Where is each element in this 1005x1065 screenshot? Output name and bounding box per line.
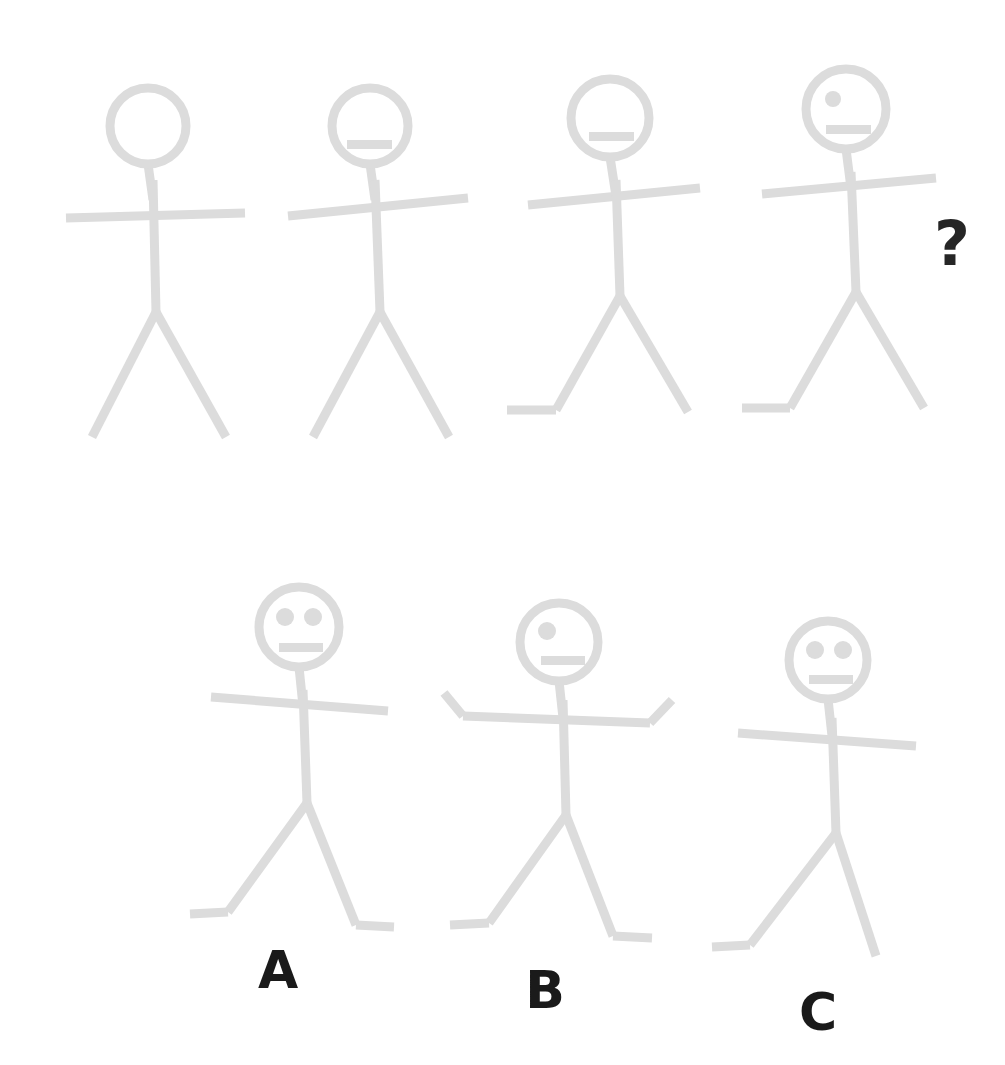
figure-left-eye — [806, 641, 824, 659]
figure-torso — [563, 700, 566, 815]
figure-right-leg — [566, 815, 613, 936]
sequence-figure-1 — [66, 88, 245, 437]
figure-mouth — [347, 140, 392, 149]
figure-left-eye — [276, 608, 294, 626]
figure-torso — [153, 180, 156, 312]
figure-right-leg — [380, 312, 449, 437]
figure-left-leg — [228, 803, 307, 912]
figure-head — [806, 69, 886, 149]
figure-left-leg — [556, 296, 620, 410]
figure-mouth — [809, 675, 853, 684]
option-b-label: B — [525, 960, 565, 1020]
figure-mouth — [589, 132, 634, 141]
figure-right-eye — [834, 641, 852, 659]
sequence-figure-2 — [288, 88, 468, 437]
option-c[interactable]: C — [712, 621, 916, 1042]
figure-head — [789, 621, 867, 699]
figure-left-leg — [313, 312, 380, 437]
figure-right-leg — [307, 803, 356, 925]
figure-right-foot — [356, 925, 394, 927]
figure-left-leg — [92, 312, 156, 437]
option-c-figure — [712, 621, 916, 956]
sequence-row — [66, 69, 936, 437]
figure-left-eye — [538, 622, 556, 640]
sequence-figure-4 — [742, 69, 936, 408]
figure-arms — [463, 716, 650, 723]
puzzle-canvas: ABC ? — [0, 0, 1005, 1065]
figure-left-leg — [489, 815, 566, 923]
option-a-label: A — [258, 940, 298, 1000]
figure-head — [259, 587, 339, 667]
figure-left-hand — [444, 693, 463, 716]
figure-right-leg — [156, 312, 226, 437]
figure-torso — [616, 180, 620, 296]
option-b-figure — [444, 603, 672, 938]
option-b[interactable]: B — [444, 603, 672, 1020]
figure-mouth — [826, 125, 871, 134]
figure-arms — [738, 733, 916, 746]
figure-head — [332, 88, 408, 164]
sequence-figure-3 — [507, 79, 700, 412]
figure-left-foot — [712, 945, 750, 947]
question-mark: ? — [934, 207, 970, 280]
figure-head — [110, 88, 186, 164]
figure-left-foot — [190, 912, 228, 914]
puzzle-root: ABC ? — [0, 0, 1005, 1065]
figure-torso — [832, 718, 836, 833]
figure-mouth — [279, 643, 323, 652]
figure-right-leg — [856, 292, 924, 408]
figure-head — [520, 603, 598, 681]
figure-right-hand — [650, 700, 672, 723]
figure-right-leg — [836, 833, 876, 956]
figure-left-eye — [825, 91, 841, 107]
figure-left-leg — [790, 292, 856, 408]
figure-right-foot — [613, 936, 652, 938]
figure-torso — [851, 172, 856, 292]
figure-right-eye — [304, 608, 322, 626]
figure-left-foot — [450, 923, 489, 925]
figure-head — [571, 79, 649, 157]
figure-left-leg — [750, 833, 836, 945]
option-a-figure — [190, 587, 394, 927]
figure-torso — [303, 690, 307, 803]
answer-options-row: ABC — [190, 587, 916, 1042]
option-a[interactable]: A — [190, 587, 394, 1000]
figure-torso — [375, 180, 380, 312]
option-c-label: C — [799, 982, 837, 1042]
figure-mouth — [541, 656, 585, 665]
figure-right-leg — [620, 296, 688, 412]
